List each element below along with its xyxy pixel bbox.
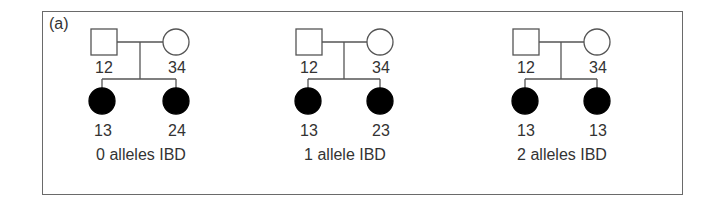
ibd-caption: 1 allele IBD [304,146,386,164]
mother-genotype: 34 [361,59,401,77]
affected-child-icon [512,88,538,114]
child2-genotype: 24 [157,122,197,140]
affected-child-icon [295,88,321,114]
ibd-caption: 2 alleles IBD [517,146,607,164]
father-genotype: 12 [84,59,124,77]
affected-child-icon [163,88,189,114]
mother-circle-icon [584,29,610,55]
child1-genotype: 13 [83,122,123,140]
child1-genotype: 13 [289,122,329,140]
mother-genotype: 34 [578,59,618,77]
father-square-icon [513,29,539,55]
affected-child-icon [89,88,115,114]
mother-circle-icon [367,29,393,55]
mother-circle-icon [163,29,189,55]
child2-genotype: 13 [578,122,618,140]
ibd-caption: 0 alleles IBD [96,146,186,164]
mother-genotype: 34 [157,59,197,77]
father-genotype: 12 [506,59,546,77]
father-square-icon [296,29,322,55]
father-genotype: 12 [289,59,329,77]
pedigree-diagram [0,0,719,204]
child2-genotype: 23 [361,122,401,140]
father-square-icon [91,29,117,55]
affected-child-icon [584,88,610,114]
affected-child-icon [367,88,393,114]
child1-genotype: 13 [506,122,546,140]
